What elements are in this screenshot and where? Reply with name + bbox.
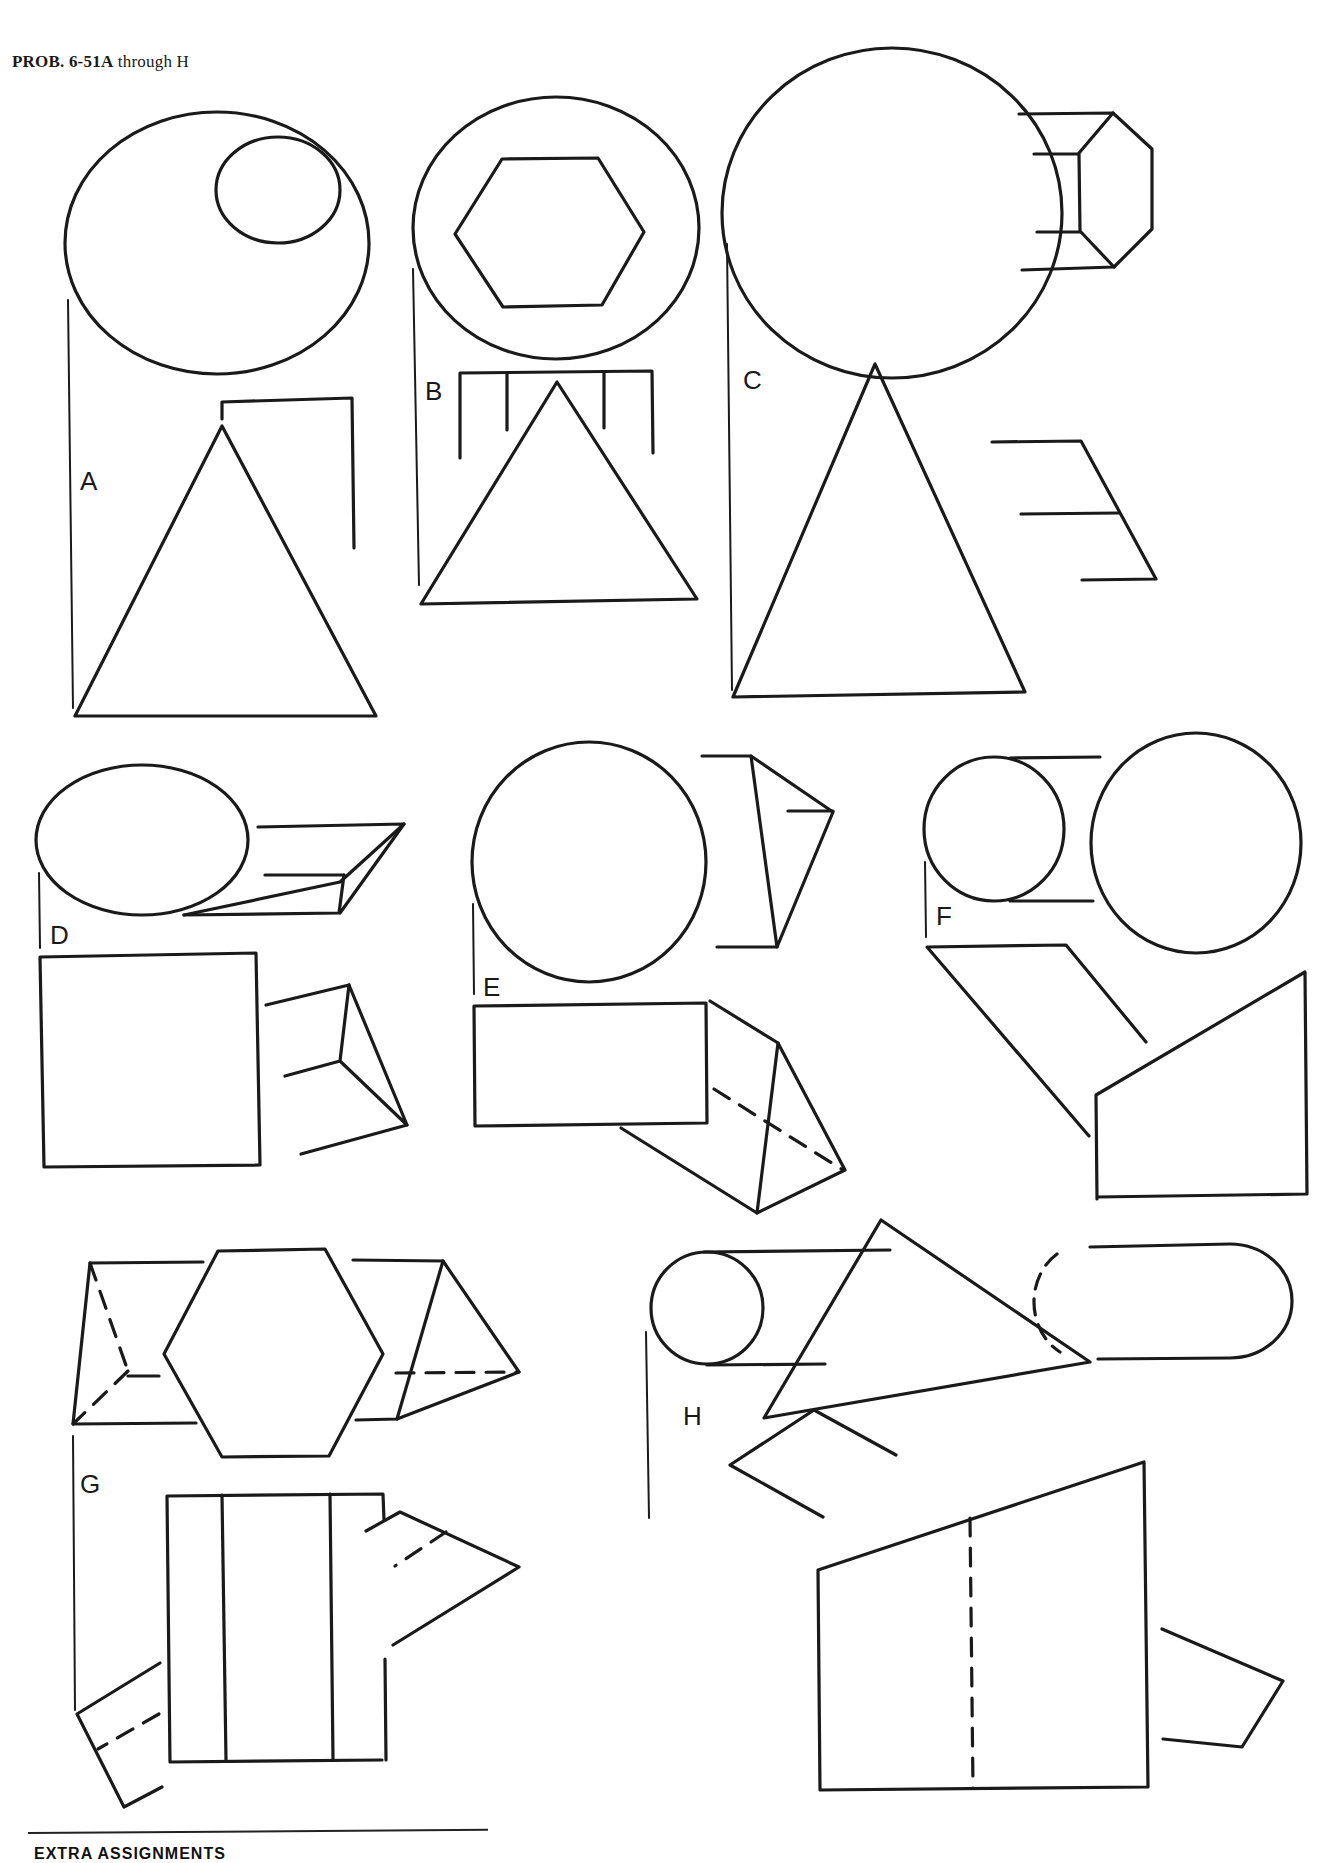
object-line xyxy=(340,824,404,913)
object-line xyxy=(1021,513,1119,514)
hidden-line xyxy=(395,1532,446,1566)
object-line xyxy=(1162,1629,1283,1747)
object-line xyxy=(1079,113,1113,153)
object-line xyxy=(651,1252,763,1364)
object-line xyxy=(75,426,376,716)
object-line xyxy=(65,112,369,374)
hidden-line xyxy=(73,1371,128,1424)
object-line xyxy=(167,1494,384,1762)
object-line xyxy=(992,441,1156,580)
problem-f-figure: F xyxy=(924,733,1307,1199)
problem-c-figure: C xyxy=(722,48,1156,697)
object-line xyxy=(1090,1244,1292,1359)
problem-b-figure: B xyxy=(413,97,699,604)
object-line xyxy=(455,158,644,307)
object-line xyxy=(927,945,1146,1136)
object-line xyxy=(385,1659,386,1760)
reference-line xyxy=(646,1332,649,1518)
hidden-line xyxy=(98,1714,159,1749)
object-line xyxy=(702,756,833,947)
object-line xyxy=(366,1512,519,1645)
reference-line xyxy=(473,904,474,994)
object-line xyxy=(751,756,777,947)
object-line xyxy=(733,364,1025,697)
object-line xyxy=(222,1495,226,1760)
object-line xyxy=(330,1494,333,1759)
object-line xyxy=(164,1249,383,1457)
problem-label-b: B xyxy=(425,376,442,406)
reference-line xyxy=(68,300,73,708)
object-line xyxy=(73,1262,203,1424)
object-line xyxy=(818,1462,1148,1790)
object-line xyxy=(397,1261,443,1419)
object-line xyxy=(216,137,340,243)
object-line xyxy=(1010,757,1100,758)
problem-label-h: H xyxy=(683,1401,702,1431)
problem-label-a: A xyxy=(80,466,98,496)
problem-label-d: D xyxy=(50,920,69,950)
object-line xyxy=(301,1125,407,1154)
object-line xyxy=(266,985,349,1076)
problem-a-figure: A xyxy=(65,112,376,716)
object-line xyxy=(413,97,699,359)
problem-label-c: C xyxy=(743,365,762,395)
hidden-line xyxy=(970,1518,973,1788)
problem-g-figure: G xyxy=(73,1249,519,1807)
object-line xyxy=(340,985,407,1125)
object-line xyxy=(36,765,248,915)
object-line xyxy=(40,953,260,1167)
object-line xyxy=(222,398,354,548)
problem-label-f: F xyxy=(936,901,952,931)
problem-e-figure: E xyxy=(472,742,845,1213)
object-line xyxy=(421,382,697,604)
section-heading: EXTRA ASSIGNMENTS xyxy=(34,1845,226,1863)
reference-line xyxy=(413,269,419,585)
object-line xyxy=(707,1364,825,1365)
hidden-line xyxy=(396,1372,519,1373)
object-line xyxy=(924,757,1064,901)
reference-line xyxy=(39,873,40,948)
reference-line xyxy=(73,1436,75,1710)
object-line xyxy=(621,1001,845,1213)
problem-h-figure: H xyxy=(646,1220,1292,1790)
reference-line xyxy=(925,862,926,937)
reference-line xyxy=(727,244,732,690)
object-line xyxy=(1096,972,1307,1199)
problem-d-figure: D xyxy=(36,765,407,1167)
object-line xyxy=(1019,113,1152,270)
object-line xyxy=(1091,733,1301,953)
hidden-line xyxy=(90,1263,128,1371)
object-line xyxy=(472,742,706,982)
object-line xyxy=(474,1003,707,1126)
object-line xyxy=(730,1410,896,1517)
object-line xyxy=(1034,154,1114,267)
object-line xyxy=(722,48,1062,378)
problem-label-g: G xyxy=(80,1469,100,1499)
problem-label-e: E xyxy=(483,972,500,1002)
